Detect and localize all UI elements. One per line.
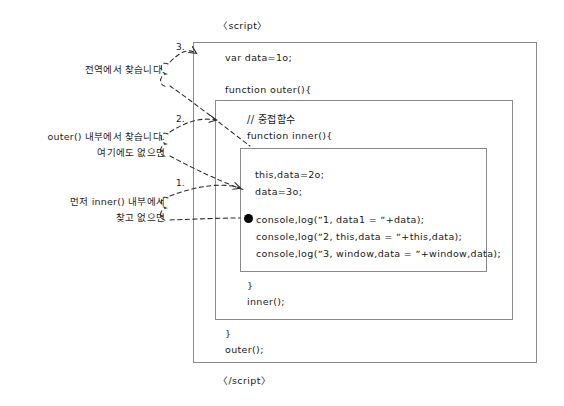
annotation-2-text-line2: 여기에도 없으면 — [10, 146, 165, 159]
code-line-global-var: var data=1o; — [225, 53, 292, 63]
annotation-3-number: 3. — [176, 42, 185, 52]
annotation-3-text: 전역에서 찾습니다. — [30, 63, 165, 76]
code-line-console-log-1: console,log(ˮ1, data1 = ˮ+data); — [256, 215, 424, 225]
code-line-console-log-3: console,log(ˮ3, window,data = ˮ+window,d… — [256, 249, 501, 259]
code-line-outer-close-brace: } — [225, 329, 231, 339]
script-close-tag: 〈/script〉 — [218, 373, 271, 387]
annotation-1-text-line2: 찾고 없으면 — [20, 211, 165, 224]
annotation-2-number: 2. — [176, 114, 185, 124]
code-line-outer-call: outer(); — [225, 345, 264, 355]
code-line-inner-call: inner(); — [247, 297, 285, 307]
code-line-console-log-2: console,log(ˮ2, this,data = ˮ+this,data)… — [256, 232, 462, 242]
code-line-nested-comment: // 중접함수 — [247, 115, 295, 125]
code-line-data-assign: data=3o; — [255, 187, 302, 197]
script-open-tag: 〈script〉 — [218, 18, 268, 32]
code-line-inner-declaration: function inner(){ — [247, 131, 333, 141]
annotation-1-number: 1. — [176, 178, 185, 188]
execution-point-marker — [244, 214, 253, 223]
annotation-2-text-line1: outer() 내부에서 찾습니다. — [10, 130, 165, 143]
code-line-this-data-assign: this,data=2o; — [255, 170, 324, 180]
diagram-canvas: 〈script〉 var data=1o; function outer(){ … — [0, 0, 564, 406]
code-line-outer-declaration: function outer(){ — [225, 85, 312, 95]
annotation-1-text-line1: 먼저 inner() 내부에서 — [20, 195, 165, 208]
code-line-inner-close-brace: } — [247, 281, 253, 291]
